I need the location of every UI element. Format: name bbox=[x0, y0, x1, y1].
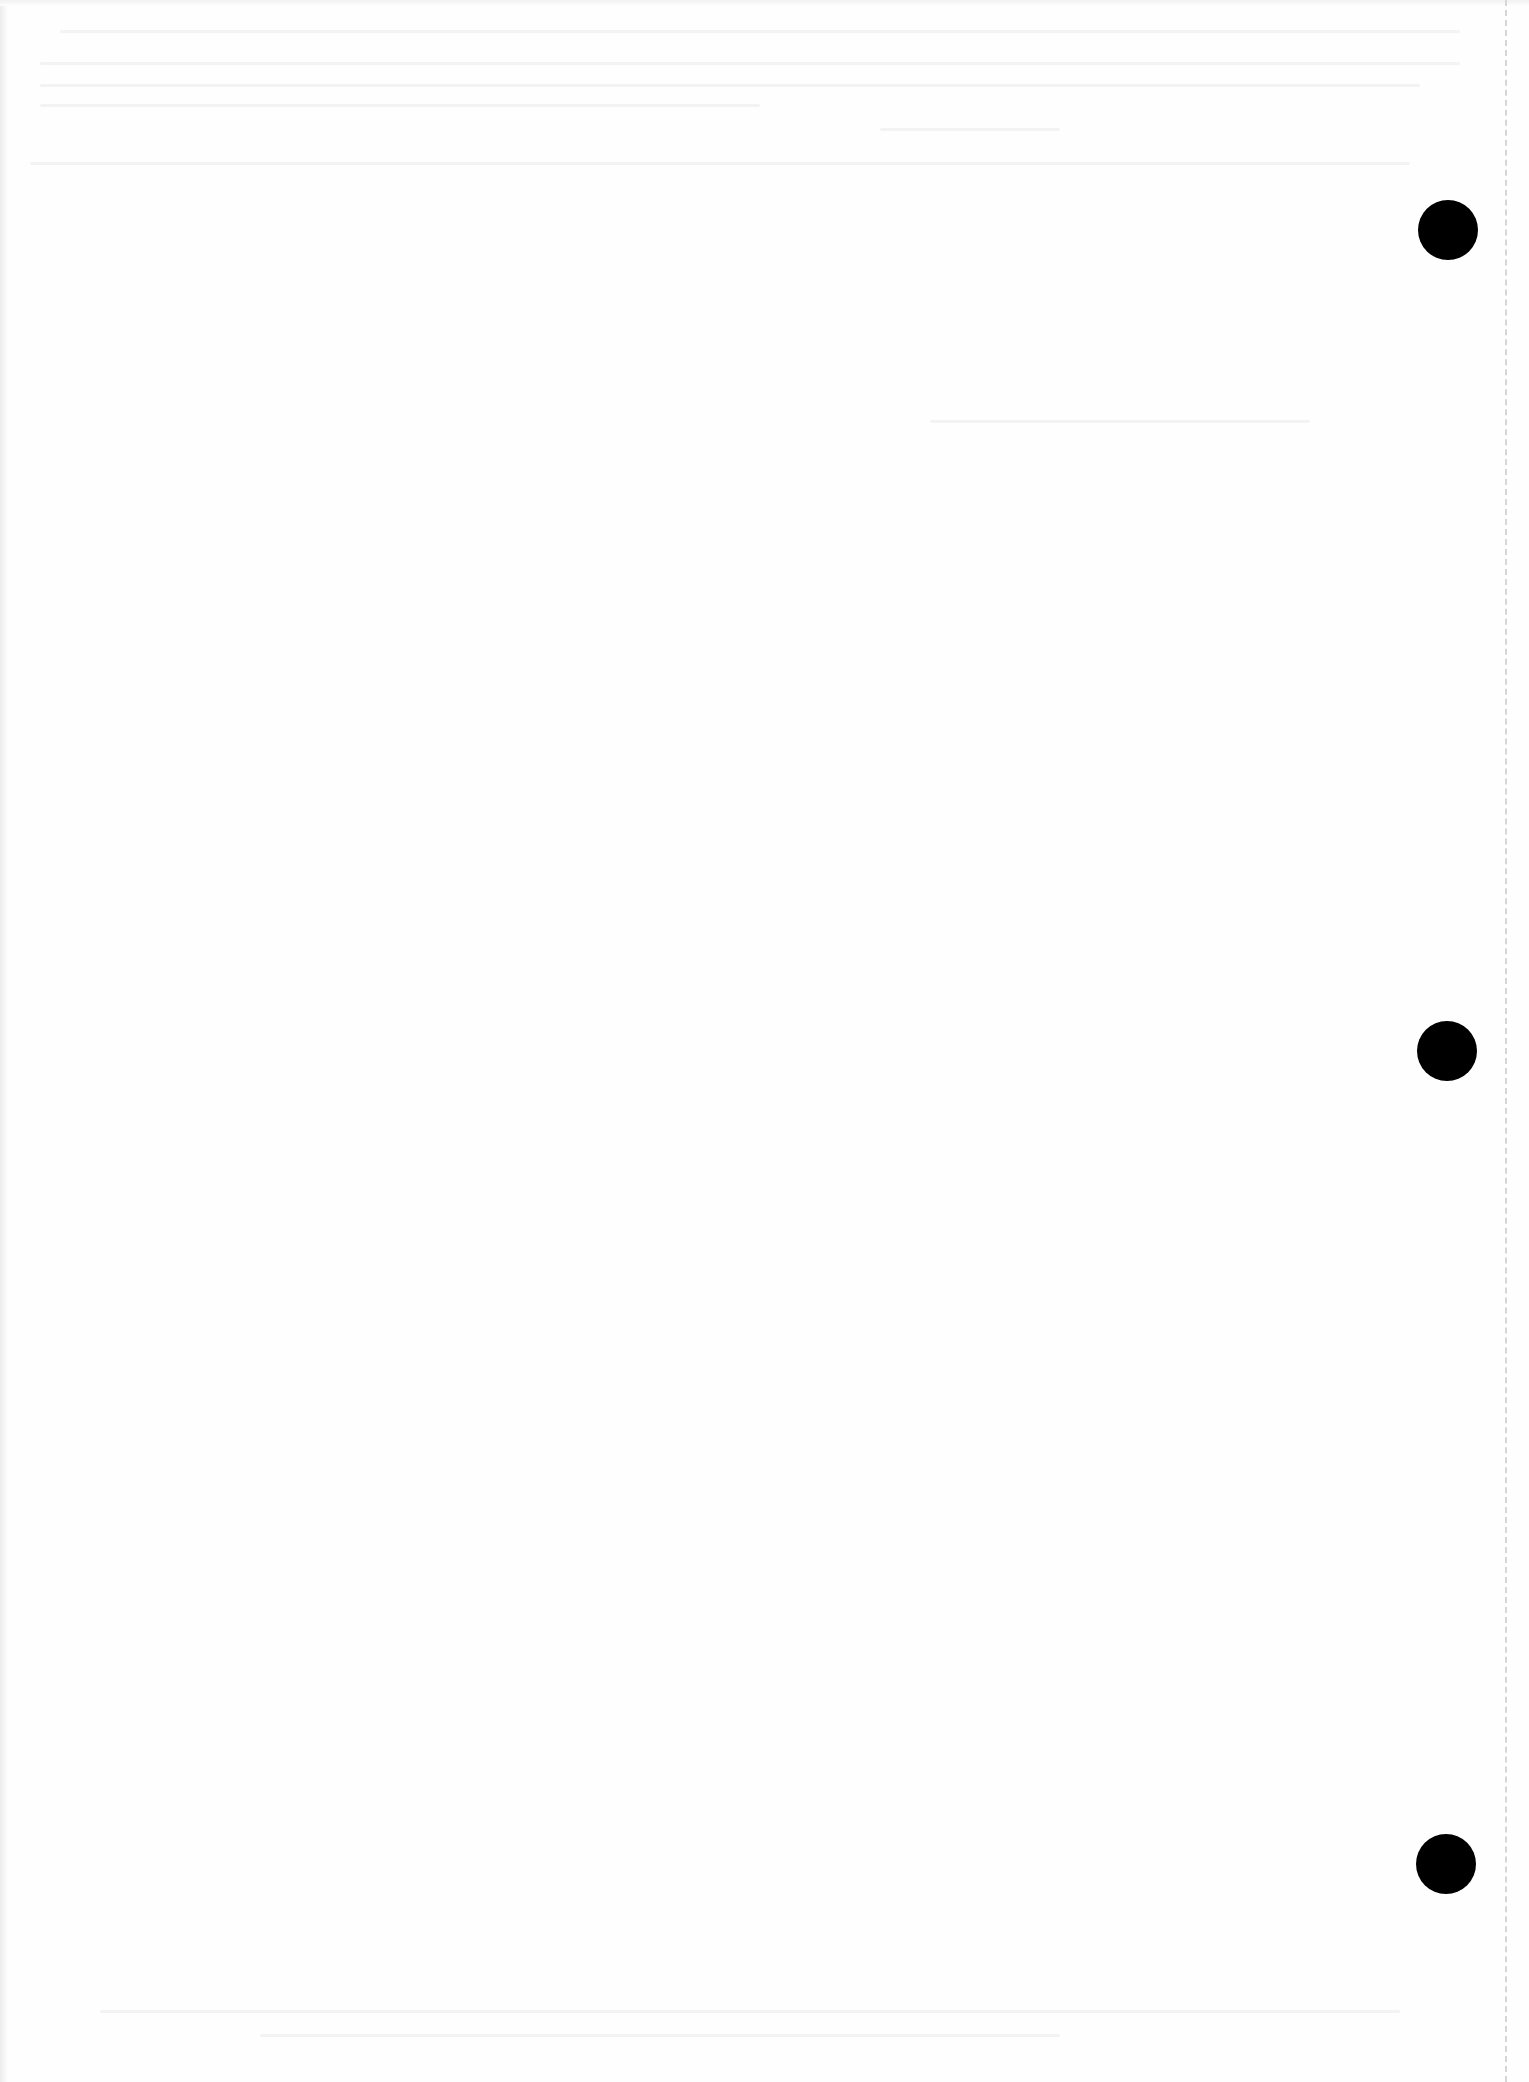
bleed-through-mark bbox=[930, 420, 1310, 423]
punch-hole-middle bbox=[1417, 1021, 1477, 1081]
bleed-through-mark bbox=[40, 104, 760, 107]
bleed-through-mark bbox=[40, 84, 1420, 87]
bleed-through-mark bbox=[100, 2010, 1400, 2013]
perforation-line bbox=[1505, 0, 1507, 2082]
bleed-through-mark bbox=[40, 62, 1460, 65]
bleed-through-mark bbox=[30, 162, 1410, 165]
scan-edge-shadow-top bbox=[0, 0, 1529, 6]
bleed-through-mark bbox=[60, 30, 1460, 33]
scanned-page bbox=[0, 0, 1529, 2082]
scan-edge-shadow-left bbox=[0, 0, 8, 2082]
bleed-through-mark bbox=[880, 128, 1060, 131]
bleed-through-mark bbox=[260, 2034, 1060, 2037]
punch-hole-bottom bbox=[1416, 1834, 1476, 1894]
punch-hole-top bbox=[1418, 200, 1478, 260]
